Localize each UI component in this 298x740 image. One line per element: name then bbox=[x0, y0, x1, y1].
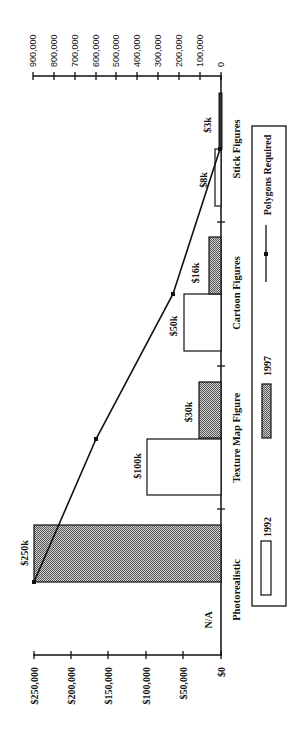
poly-marker-cartoon bbox=[171, 292, 175, 296]
category-stick: Stick Figures bbox=[231, 119, 242, 178]
legend-swatch-1997 bbox=[262, 384, 271, 438]
legend-label-1992: 1992 bbox=[262, 517, 273, 537]
poly-tick-100000: 100,000 bbox=[195, 34, 205, 67]
bar-1992-cartoon bbox=[184, 294, 221, 351]
category-texture-map: Texture Map Figure bbox=[231, 393, 242, 484]
dollar-axis: $250,000 $200,000 $150,000 $100,000 $50,… bbox=[29, 651, 227, 705]
polygon-axis: 900,000 800,000 700,000 600,000 500,000 … bbox=[28, 34, 226, 80]
poly-tick-900000: 900,000 bbox=[28, 34, 38, 67]
dollar-tick-200000: $200,000 bbox=[66, 667, 77, 705]
dollar-tick-50000: $50,000 bbox=[178, 667, 189, 700]
poly-tick-300000: 300,000 bbox=[153, 34, 163, 67]
label-1992-texture-map: $100k bbox=[132, 453, 143, 479]
label-1992-stick: $8k bbox=[198, 172, 209, 188]
poly-tick-200000: 200,000 bbox=[174, 34, 184, 67]
legend-swatch-1992 bbox=[261, 541, 271, 595]
legend-marker-polygons bbox=[264, 252, 268, 256]
poly-tick-0: 0 bbox=[216, 62, 226, 67]
label-1997-stick: $3k bbox=[202, 117, 213, 133]
bar-1997-photorealistic bbox=[34, 525, 221, 582]
label-1992-cartoon: $50k bbox=[168, 315, 179, 336]
label-1997-photorealistic: $250k bbox=[19, 540, 30, 566]
bar-group-cartoon: $50k $16k bbox=[168, 237, 221, 351]
bar-1997-cartoon bbox=[209, 237, 221, 294]
category-photorealistic: Photorealistic bbox=[231, 559, 242, 621]
poly-marker-texture-map bbox=[94, 437, 98, 441]
bar-1997-stick bbox=[219, 93, 222, 149]
legend-label-polygons: Polygons Required bbox=[262, 134, 273, 215]
poly-tick-500000: 500,000 bbox=[111, 34, 121, 67]
poly-tick-400000: 400,000 bbox=[132, 34, 142, 67]
category-labels: Photorealistic Texture Map Figure Cartoo… bbox=[231, 119, 242, 620]
dollar-tick-100000: $100,000 bbox=[141, 667, 152, 705]
label-1992-photorealistic: N/A bbox=[203, 611, 214, 629]
legend-label-1997: 1997 bbox=[262, 356, 273, 376]
poly-marker-stick bbox=[218, 147, 222, 151]
bar-1997-texture-map bbox=[199, 382, 221, 438]
category-cartoon: Cartoon Figures bbox=[231, 256, 242, 330]
poly-marker-photorealistic bbox=[32, 580, 36, 584]
poly-tick-600000: 600,000 bbox=[91, 34, 101, 67]
dollar-tick-0: $0 bbox=[216, 667, 227, 677]
bar-group-texture-map: $100k $30k bbox=[132, 382, 221, 495]
label-1997-cartoon: $16k bbox=[190, 262, 201, 283]
dollar-tick-150000: $150,000 bbox=[103, 667, 114, 705]
chart-canvas: 900,000 800,000 700,000 600,000 500,000 … bbox=[0, 0, 298, 740]
label-1997-texture-map: $30k bbox=[183, 401, 194, 422]
bar-1992-texture-map bbox=[147, 439, 221, 495]
poly-tick-700000: 700,000 bbox=[70, 34, 80, 67]
dollar-tick-250000: $250,000 bbox=[29, 667, 40, 705]
legend: 1992 1997 Polygons Required bbox=[252, 126, 286, 606]
polygons-required-line bbox=[32, 147, 222, 584]
bar-group-photorealistic: $250k N/A bbox=[19, 525, 221, 629]
poly-tick-800000: 800,000 bbox=[49, 34, 59, 67]
